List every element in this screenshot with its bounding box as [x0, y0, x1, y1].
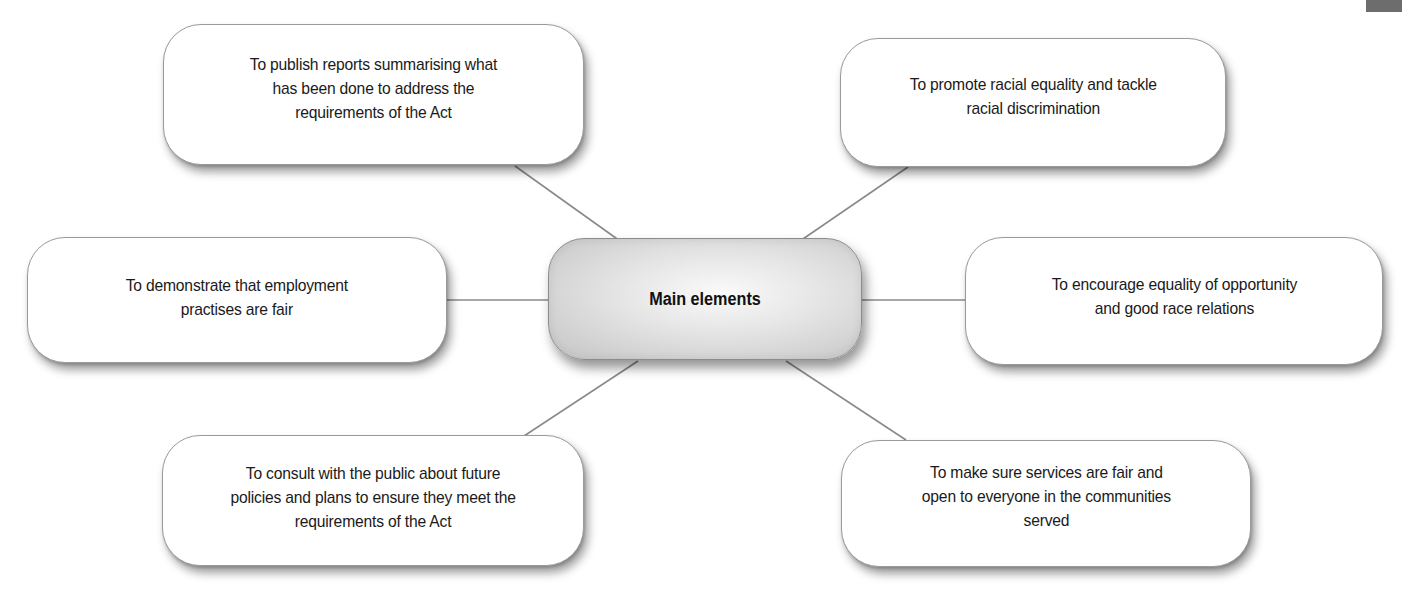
branch-node-promote-racial-equality: To promote racial equality and tackle ra… [840, 38, 1226, 167]
mind-map-canvas: To publish reports summarising what has … [0, 0, 1402, 615]
corner-page-tab [1366, 0, 1402, 12]
branch-node-publish-reports: To publish reports summarising what has … [163, 24, 584, 165]
branch-node-employment-practises: To demonstrate that employment practises… [27, 237, 447, 363]
branch-label: To promote racial equality and tackle ra… [909, 73, 1156, 121]
branch-node-equality-of-opportunity: To encourage equality of opportunity and… [965, 237, 1383, 365]
branch-label: To make sure services are fair and open … [921, 461, 1170, 533]
connector-top-right [800, 167, 908, 241]
branch-node-fair-services: To make sure services are fair and open … [841, 440, 1251, 567]
branch-label: To consult with the public about future … [230, 462, 515, 534]
branch-label: To encourage equality of opportunity and… [1051, 273, 1297, 321]
connector-top-left [515, 166, 620, 241]
connector-bottom-right [786, 361, 906, 440]
connector-bottom-left [524, 361, 638, 436]
center-label: Main elements [649, 289, 761, 310]
branch-node-consult-public: To consult with the public about future … [162, 435, 584, 566]
branch-label: To demonstrate that employment practises… [126, 274, 348, 322]
branch-label: To publish reports summarising what has … [250, 53, 497, 125]
center-node-main-elements: Main elements [548, 238, 862, 360]
